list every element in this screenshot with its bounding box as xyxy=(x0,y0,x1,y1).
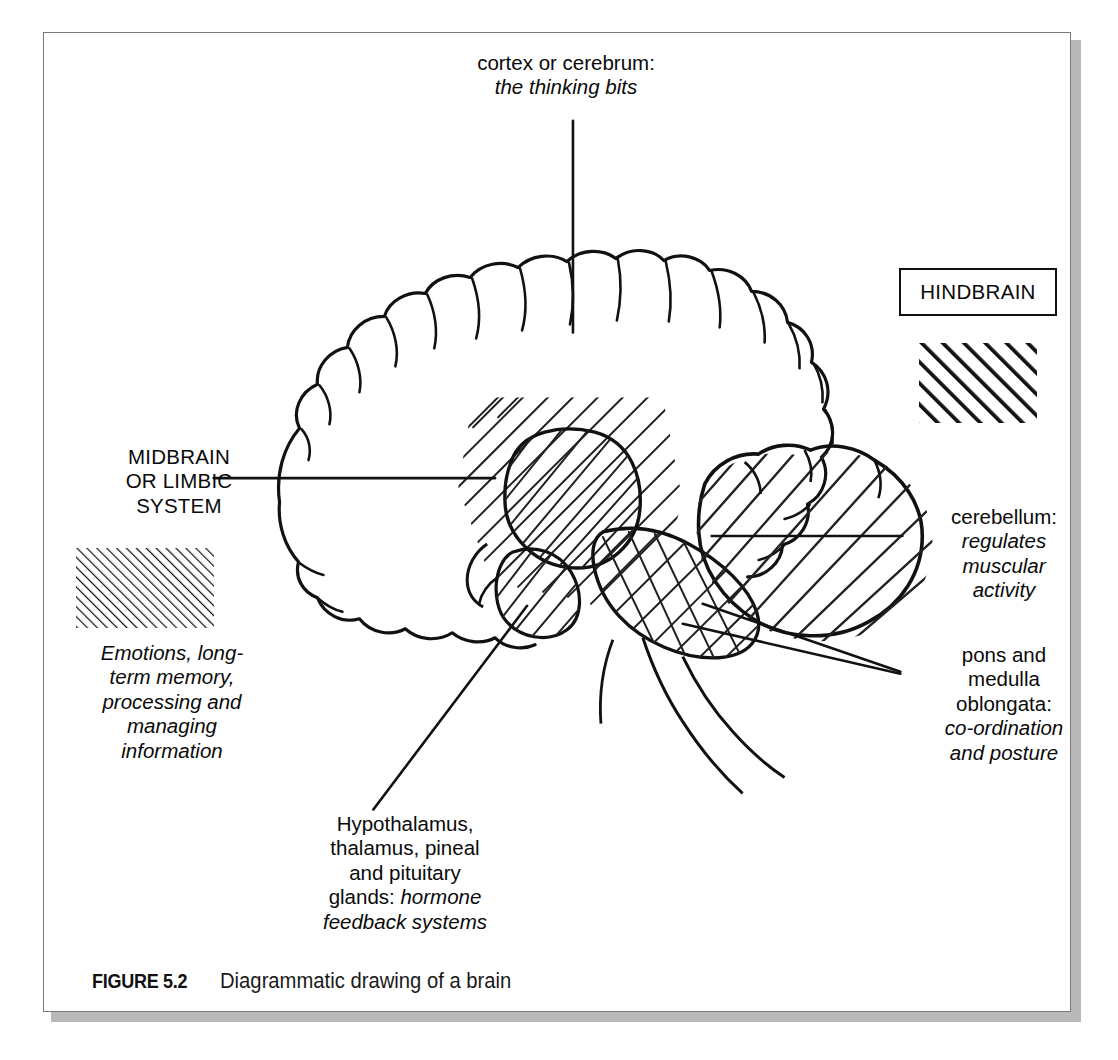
swatch-hindbrain-hatch xyxy=(919,343,1037,423)
label-pons-subtitle: co-ordination and posture xyxy=(904,716,1104,765)
figure-caption-number: FIGURE 5.2 xyxy=(92,970,187,993)
label-hindbrain-title: HINDBRAIN xyxy=(920,280,1035,304)
leader-pons-lower xyxy=(683,624,901,674)
leader-hypothalamus xyxy=(373,606,527,810)
label-cortex-title: cortex or cerebrum: xyxy=(436,51,696,75)
swatch-midbrain-hatch xyxy=(76,548,214,628)
brainstem-structure xyxy=(571,520,785,793)
label-midbrain-description: Emotions, long- term memory, processing … xyxy=(52,641,292,763)
figure-frame: cortex or cerebrum: the thinking bits MI… xyxy=(43,32,1071,1012)
label-cerebellum-subtitle: regulates muscular activity xyxy=(904,529,1104,602)
label-pons-title: pons and medulla oblongata: xyxy=(904,643,1104,716)
figure-caption-text: Diagrammatic drawing of a brain xyxy=(220,968,511,994)
label-hindbrain-box: HINDBRAIN xyxy=(899,268,1057,316)
label-cerebellum: cerebellum: regulates muscular activity xyxy=(904,505,1104,603)
label-cortex: cortex or cerebrum: the thinking bits xyxy=(436,51,696,100)
label-hypothalamus: Hypothalamus, thalamus, pineal and pitui… xyxy=(275,812,535,934)
figure-caption: FIGURE 5.2 Diagrammatic drawing of a bra… xyxy=(92,968,537,994)
label-cerebellum-title: cerebellum: xyxy=(904,505,1104,529)
label-midbrain: MIDBRAIN OR LIMBIC SYSTEM xyxy=(64,445,294,518)
label-pons: pons and medulla oblongata: co-ordinatio… xyxy=(904,643,1104,765)
label-cortex-subtitle: the thinking bits xyxy=(436,75,696,99)
